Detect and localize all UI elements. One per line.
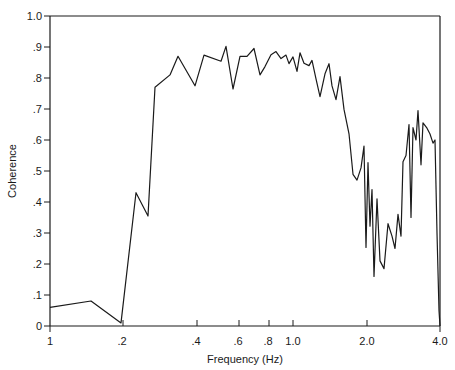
- y-tick-label: .1: [33, 289, 42, 301]
- y-tick-label: 1.0: [27, 10, 42, 22]
- y-tick-label: .2: [33, 258, 42, 270]
- x-axis: 1 .2 .4 .6 .8 1.0 2.0 4.0 Frequency (Hz): [47, 320, 448, 365]
- y-tick-label: .4: [33, 196, 42, 208]
- x-tick-label: 1: [47, 335, 53, 347]
- x-tick-label: .8: [263, 335, 272, 347]
- coherence-series-line: [50, 46, 440, 326]
- x-tick-label: .2: [117, 335, 126, 347]
- y-axis: 1.0 .9 .8 .7 .6 .5 .4 .3 .2 .1 0 Coheren…: [6, 10, 50, 332]
- x-tick-label: 1.0: [285, 335, 300, 347]
- x-tick-label: .6: [233, 335, 242, 347]
- y-tick-label: .6: [33, 134, 42, 146]
- plot-frame: [50, 16, 440, 326]
- y-tick-label: .8: [33, 72, 42, 84]
- x-tick-label: 4.0: [432, 335, 447, 347]
- y-tick-label: .7: [33, 103, 42, 115]
- x-axis-title: Frequency (Hz): [207, 353, 283, 365]
- coherence-chart: 1.0 .9 .8 .7 .6 .5 .4 .3 .2 .1 0 Coheren…: [0, 0, 455, 370]
- y-tick-label: .3: [33, 227, 42, 239]
- x-tick-label: 2.0: [359, 335, 374, 347]
- y-tick-label: 0: [36, 320, 42, 332]
- y-tick-label: .9: [33, 41, 42, 53]
- y-tick-label: .5: [33, 165, 42, 177]
- y-axis-title: Coherence: [6, 144, 18, 198]
- x-tick-label: .4: [191, 335, 200, 347]
